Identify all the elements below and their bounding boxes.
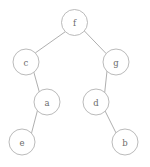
tree-edge-g-d [105, 71, 107, 92]
node-label-b: b [122, 138, 128, 148]
tree-edge-d-b [105, 111, 116, 133]
tree-edge-f-c [36, 32, 65, 53]
tree-edge-c-a [34, 72, 39, 91]
node-label-c: c [24, 58, 29, 68]
binary-tree-diagram: fcgadeb [0, 0, 150, 167]
node-label-a: a [44, 98, 49, 108]
tree-node-e: e [9, 129, 35, 155]
tree-node-b: b [112, 129, 138, 155]
node-label-g: g [113, 58, 119, 68]
tree-node-g: g [103, 49, 129, 75]
node-label-d: d [93, 98, 99, 108]
tree-edge-a-e [32, 111, 38, 134]
tree-edges-group [32, 31, 116, 133]
tree-node-f: f [62, 10, 88, 36]
tree-node-c: c [13, 49, 39, 75]
tree-nodes-group: fcgadeb [9, 10, 138, 156]
tree-edge-f-g [85, 31, 106, 53]
tree-node-d: d [83, 89, 109, 115]
tree-canvas: fcgadeb [0, 0, 150, 167]
tree-node-a: a [34, 89, 60, 115]
node-label-e: e [19, 138, 24, 148]
